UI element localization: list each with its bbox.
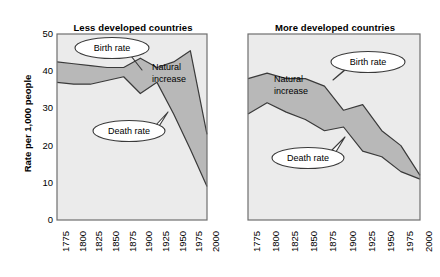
chart-canvas: Birth rateDeath rateNaturalincreaseBirth…: [0, 0, 440, 277]
callout-birth-rate-more-developed-label: Birth rate: [350, 57, 387, 67]
figure-root: Rate per 1,000 people Less developed cou…: [0, 0, 440, 277]
callout-death-rate-less-developed-label: Death rate: [108, 126, 150, 136]
label-natural-increase-line2: increase: [152, 74, 186, 84]
label-natural-increase-line1: Natural: [152, 62, 181, 72]
callout-death-rate-more-developed-label: Death rate: [287, 153, 329, 163]
callout-birth-rate-less-developed-label: Birth rate: [94, 43, 131, 53]
label-natural-increase-line2: increase: [274, 86, 308, 96]
label-natural-increase-line1: Natural: [274, 74, 303, 84]
